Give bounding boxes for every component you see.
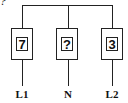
box-l2-value: 3 (106, 37, 118, 51)
branch-l2-lower-wire (112, 60, 113, 86)
branch-l1-upper-wire (22, 5, 23, 29)
box-l1-value: 7 (16, 37, 28, 51)
corner-question-mark: ? (0, 0, 6, 9)
branch-n-lower-wire (68, 60, 69, 86)
box-n-value: ? (61, 37, 73, 51)
branch-n-upper-wire (68, 5, 69, 29)
label-l1: L1 (7, 88, 37, 100)
label-l2: L2 (97, 88, 127, 100)
branch-l2-upper-wire (112, 5, 113, 29)
box-l1: 7 (11, 28, 33, 60)
box-l2: 3 (101, 28, 123, 60)
branch-l1-lower-wire (22, 60, 23, 86)
box-n: ? (56, 28, 78, 60)
label-n: N (53, 88, 83, 100)
